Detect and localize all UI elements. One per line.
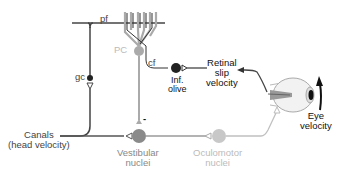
label-pf: pf	[100, 14, 108, 24]
gc-synapse-icon	[87, 83, 93, 89]
inhibitory-sign: -	[143, 114, 146, 124]
eye-icon	[268, 78, 314, 112]
label-inf-olive: Inf. olive	[168, 76, 187, 94]
label-retinal-slip-velocity: Retinal slip velocity	[206, 58, 238, 88]
pc-inhibitory-synapse	[136, 119, 142, 124]
retinal-slip-line	[240, 70, 267, 92]
label-eye-velocity: Eye velocity	[300, 111, 332, 131]
label-pc: PC	[114, 45, 127, 55]
label-gc: gc	[75, 72, 85, 82]
label-cf: cf	[148, 58, 155, 68]
retinal-slip-arrowhead	[237, 67, 244, 73]
label-canals: Canals (head velocity)	[8, 130, 70, 150]
eye-velocity-arrow	[320, 84, 321, 110]
io-synapse-icon	[182, 65, 187, 71]
granule-cell-soma	[87, 75, 93, 81]
vn-synapse-icon	[126, 133, 132, 139]
vestibular-nuclei-node	[132, 129, 146, 143]
om-synapse-icon	[274, 107, 280, 113]
oculomotor-nuclei-node	[212, 129, 226, 143]
purkinje-soma	[134, 46, 144, 56]
label-vestibular-nuclei: Vestibular nuclei	[117, 148, 159, 168]
label-oculomotor-nuclei: Oculomotor nuclei	[193, 148, 242, 168]
inferior-olive-soma	[171, 63, 181, 73]
